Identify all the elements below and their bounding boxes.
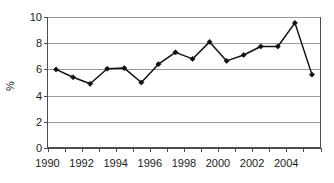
- y-tick-label-8: 8: [36, 37, 42, 49]
- y-tick-label-2: 2: [36, 116, 42, 128]
- y-tick-label-6: 6: [36, 63, 42, 75]
- y-tick-label-4: 4: [36, 90, 42, 102]
- y-tick-label-10: 10: [30, 11, 42, 23]
- y-tick-label-0: 0: [36, 142, 42, 154]
- x-tick-label-1998: 1998: [172, 157, 196, 169]
- x-tick-label-1992: 1992: [69, 157, 93, 169]
- line-chart: 10 8 6 4 2 0 1990 1992 1994 1996 1998 20…: [0, 0, 334, 183]
- x-tick-label-1994: 1994: [103, 157, 127, 169]
- x-tick-label-1990: 1990: [35, 157, 59, 169]
- x-tick-label-2002: 2002: [240, 157, 264, 169]
- chart-container: 10 8 6 4 2 0 1990 1992 1994 1996 1998 20…: [0, 0, 334, 183]
- y-axis-title: %: [4, 81, 16, 91]
- x-tick-label-1996: 1996: [138, 157, 162, 169]
- x-tick-label-2004: 2004: [274, 157, 298, 169]
- x-tick-label-2000: 2000: [206, 157, 230, 169]
- chart-background: [0, 0, 334, 183]
